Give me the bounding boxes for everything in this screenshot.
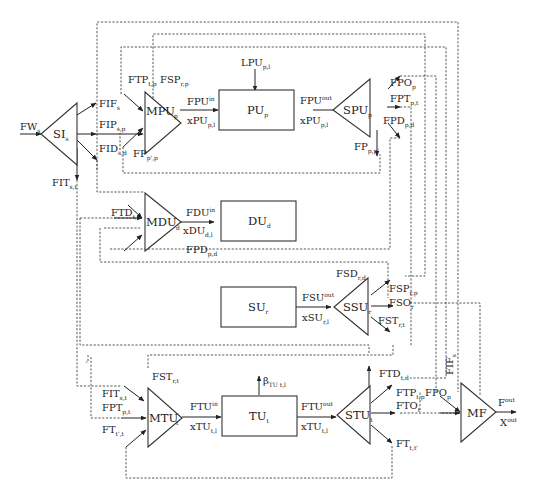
- splitter-si[interactable]: SIs: [41, 103, 77, 165]
- label-xout: Xout: [500, 416, 518, 428]
- label-fp-out: FPp,p': [354, 141, 379, 155]
- label-fpo-mf: FPOp: [425, 387, 451, 401]
- label-fif: FIFs: [99, 98, 120, 111]
- label-fpu-out: FPUout: [300, 94, 332, 106]
- label-fout: Fout: [498, 396, 515, 408]
- loop-fid: [97, 160, 144, 192]
- unit-su[interactable]: SUr: [221, 287, 296, 327]
- svg-text:MF: MF: [467, 406, 487, 420]
- label-fpt: FPTp,t: [390, 93, 419, 107]
- label-fw: FWs: [20, 121, 40, 134]
- svg-text:MPU: MPU: [146, 104, 175, 118]
- unit-du[interactable]: DUd: [221, 201, 296, 241]
- label-beta: βTU t,l: [263, 375, 286, 388]
- svg-text:d: d: [176, 224, 180, 231]
- label-fpu-in: FPUin: [187, 95, 215, 107]
- label-fit: FITs,t: [52, 177, 78, 190]
- svg-text:SUr: SUr: [248, 300, 269, 315]
- label-fso: FSOr: [389, 297, 414, 310]
- label-ftu-out: FTUout: [301, 400, 334, 412]
- svg-text:TUt: TUt: [249, 409, 269, 424]
- label-fpd-mid: FPDp,d: [186, 244, 217, 258]
- water-network-diagram: SIs MPU p PUp SPUp MDU d DUd SUr SSUr MT…: [0, 0, 533, 496]
- label-fdu-in: FDUin: [186, 206, 215, 218]
- label-ftd-out: FTDt,d: [379, 368, 409, 381]
- loop-fso: [410, 303, 480, 396]
- label-fip: FIPs,p: [99, 119, 126, 133]
- label-xpu-in: xPUp,l: [187, 115, 215, 129]
- label-lpu: LPUp,l: [241, 57, 270, 71]
- label-fsd: FSDr,d: [336, 268, 366, 281]
- label-xtu-out: xTUt,l: [301, 421, 328, 434]
- label-fid: FIDs,d: [99, 143, 127, 156]
- label-fif-mf: FIFs: [444, 354, 457, 375]
- label-ftp-out: FTPt,p: [396, 387, 425, 401]
- svg-text:p: p: [174, 112, 178, 120]
- loop-ft-tt: [126, 446, 392, 478]
- loop-ftd-up: [86, 355, 88, 362]
- label-fsp: FSPr,p: [389, 283, 418, 297]
- label-ft-in: FTt',t: [102, 424, 125, 437]
- label-fpd: FPDp,d: [383, 115, 414, 129]
- splitter-stu[interactable]: STUt: [337, 386, 373, 444]
- label-fsu-out: FSUout: [302, 291, 335, 303]
- svg-text:SSUr: SSUr: [343, 300, 371, 315]
- label-xsu-out: xSUr,l: [302, 312, 329, 325]
- label-xtu-in: xTUt,l: [190, 421, 217, 434]
- mixer-mtu[interactable]: MTU t: [148, 388, 182, 447]
- loop-ftd-mdu: [80, 218, 140, 228]
- label-fpo: FPOp: [390, 77, 416, 91]
- label-ft-out: FTt,t': [396, 438, 418, 451]
- label-fit-in: FITs,t: [102, 388, 128, 401]
- loop-fpd: [390, 138, 400, 232]
- label-fp-in: FPp',p: [133, 148, 158, 162]
- svg-text:STUt: STUt: [345, 408, 373, 423]
- unit-tu[interactable]: TUt: [222, 396, 297, 436]
- label-fpt-in: FPTp,t: [102, 402, 131, 416]
- loop-fst: [148, 345, 393, 368]
- mixer-mpu[interactable]: MPU p: [145, 92, 181, 154]
- svg-text:MDU: MDU: [146, 215, 177, 229]
- svg-text:MTU: MTU: [149, 411, 178, 425]
- label-fst-in: FSTr,t: [152, 371, 180, 384]
- label-fto: FTOt: [396, 400, 421, 413]
- svg-text:SPUp: SPUp: [343, 103, 372, 119]
- loop-fpt: [400, 107, 411, 346]
- label-ftu-in: FTUin: [190, 400, 218, 412]
- label-fsp-top: FSPr,p: [160, 74, 189, 88]
- splitter-ssu[interactable]: SSUr: [334, 278, 371, 335]
- label-xdu-in: xDUd,l: [183, 225, 213, 238]
- unit-pu[interactable]: PUp: [219, 90, 294, 130]
- mixer-mdu[interactable]: MDU d: [145, 193, 181, 251]
- label-xpu-out: xPUp,l: [300, 115, 328, 129]
- splitter-spu[interactable]: SPUp: [333, 79, 372, 137]
- mixer-mf[interactable]: MF: [461, 383, 496, 442]
- label-ftp-top: FTPt,p: [128, 74, 157, 88]
